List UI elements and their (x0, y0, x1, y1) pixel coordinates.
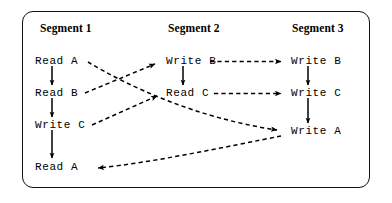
node-s1-read-a-1: Read A (35, 55, 78, 67)
node-s1-write-c: Write C (35, 119, 85, 131)
segment-header-1: Segment 1 (40, 22, 92, 34)
node-s3-write-c: Write C (291, 87, 341, 99)
node-s2-read-c: Read C (166, 87, 209, 99)
node-s3-write-b: Write B (291, 55, 341, 67)
segment-header-2: Segment 2 (168, 22, 220, 34)
node-s2-write-b: Write B (166, 55, 216, 67)
node-s1-read-a-2: Read A (35, 161, 78, 173)
node-s3-write-a: Write A (291, 125, 341, 137)
segment-header-3: Segment 3 (292, 22, 344, 34)
figure-root: Segment 1 Segment 2 Segment 3 Read A Rea… (0, 0, 392, 203)
node-s1-read-b: Read B (35, 87, 78, 99)
